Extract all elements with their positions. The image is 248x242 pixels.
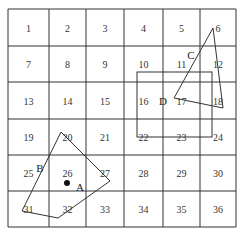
cell-number: 29	[177, 168, 187, 179]
cell-number: 36	[213, 204, 223, 215]
cell-number: 13	[24, 95, 34, 106]
point-a-dot	[64, 180, 70, 186]
cell-number: 35	[177, 204, 187, 215]
cell-number: 25	[24, 168, 34, 179]
cell-number: 15	[100, 95, 110, 106]
cell-number: 33	[100, 204, 110, 215]
cell-number: 3	[103, 22, 108, 33]
cell-number: 8	[65, 59, 70, 70]
cell-number: 16	[139, 95, 149, 106]
grid-diagram: 1234567891011121314151617181920212223242…	[0, 0, 248, 242]
cell-number: 30	[213, 168, 223, 179]
cell-number: 5	[179, 22, 184, 33]
cell-number: 28	[139, 168, 149, 179]
cell-number: 24	[213, 132, 223, 143]
cell-number: 14	[63, 95, 73, 106]
cell-number: 11	[177, 59, 187, 70]
cell-number: 6	[216, 22, 221, 33]
label-c: C	[187, 49, 194, 61]
cell-number: 22	[139, 132, 149, 143]
cell-number: 23	[177, 132, 187, 143]
cell-number: 18	[213, 95, 223, 106]
cell-number: 34	[139, 204, 149, 215]
cell-number: 26	[63, 168, 73, 179]
cell-number: 10	[139, 59, 149, 70]
label-a: A	[76, 181, 84, 193]
cell-number: 9	[103, 59, 108, 70]
cell-number: 31	[24, 204, 34, 215]
cell-number: 1	[26, 22, 31, 33]
cell-number: 2	[65, 22, 70, 33]
label-b: B	[36, 162, 43, 174]
cell-number: 4	[141, 22, 146, 33]
diagram-canvas	[0, 0, 248, 242]
cell-number: 20	[63, 132, 73, 143]
cell-number: 7	[26, 59, 31, 70]
label-d: D	[159, 95, 167, 107]
cell-number: 12	[213, 59, 223, 70]
cell-number: 32	[63, 204, 73, 215]
cell-number: 27	[100, 168, 110, 179]
cell-number: 21	[100, 132, 110, 143]
cell-number: 17	[177, 95, 187, 106]
cell-number: 19	[24, 132, 34, 143]
